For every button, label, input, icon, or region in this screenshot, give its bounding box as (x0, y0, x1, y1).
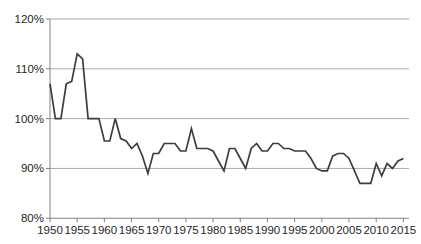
x-axis-tick-label: 2015 (391, 224, 417, 236)
x-axis-tick-label: 2010 (363, 224, 389, 236)
x-axis-tick-label: 1955 (64, 224, 90, 236)
y-axis-tick-label: 100% (15, 113, 44, 125)
y-axis-tick-label: 110% (15, 63, 44, 75)
x-axis-tick-label: 2005 (336, 224, 362, 236)
x-axis-tick-label: 1970 (146, 224, 172, 236)
y-axis-tick-label: 120% (15, 13, 44, 25)
x-axis-tick-label: 2000 (309, 224, 335, 236)
y-axis-tick-label: 90% (21, 162, 44, 174)
x-axis-tick-label: 1960 (92, 224, 118, 236)
x-axis-tick-label: 1990 (255, 224, 281, 236)
x-axis-tick-label: 1985 (227, 224, 253, 236)
x-axis-tick-label: 1965 (119, 224, 145, 236)
x-axis-tick-label: 1995 (282, 224, 308, 236)
x-axis-tick-label: 1950 (37, 224, 63, 236)
chart-canvas: 120%110%100%90%80%1950195519601965197019… (0, 0, 421, 244)
x-axis-tick-label: 1975 (173, 224, 199, 236)
line-chart: 120%110%100%90%80%1950195519601965197019… (0, 0, 421, 244)
x-axis-tick-label: 1980 (200, 224, 226, 236)
y-axis-tick-label: 80% (21, 212, 44, 224)
